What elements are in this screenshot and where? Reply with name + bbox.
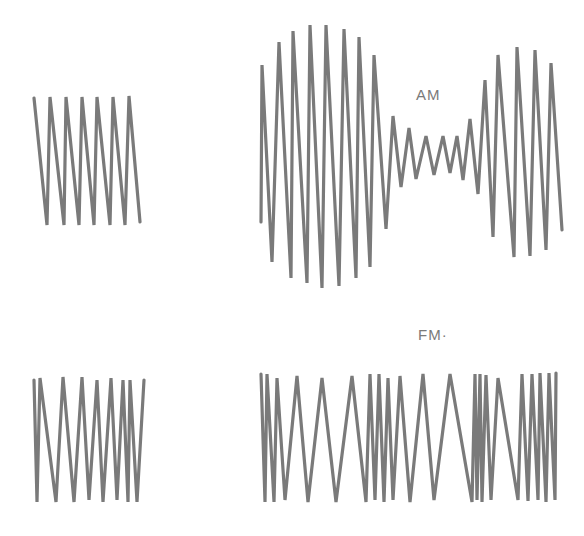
am-modulated-wave	[261, 25, 562, 288]
modulation-diagram	[0, 0, 584, 536]
fm-modulated-wave	[261, 373, 556, 502]
am-label: AM	[416, 86, 441, 103]
fm-label: FM·	[418, 326, 448, 343]
carrier-wave-bottom	[34, 377, 144, 502]
carrier-wave-top	[34, 96, 140, 225]
